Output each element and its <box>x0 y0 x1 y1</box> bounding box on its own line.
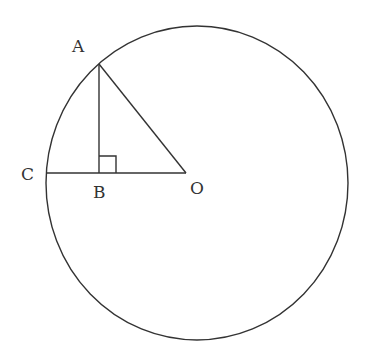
label-c: C <box>21 164 34 184</box>
geometry-diagram: A B C O <box>0 0 372 359</box>
right-angle-marker <box>99 156 116 173</box>
label-b: B <box>93 182 106 202</box>
label-o: O <box>190 178 204 198</box>
label-a: A <box>71 36 85 56</box>
